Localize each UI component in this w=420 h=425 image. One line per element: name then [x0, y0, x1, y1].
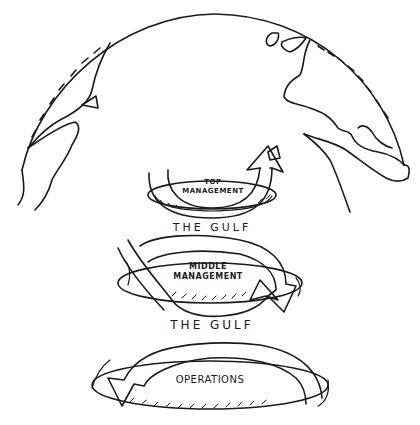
top-label-line1: TOP	[176, 178, 250, 187]
top-label-line2: MANAGEMENT	[176, 187, 250, 196]
gulf-label-1: THE GULF	[160, 221, 264, 234]
middle-label-line2: MANAGEMENT	[166, 272, 250, 282]
globe-tiers-illustration: TOP MANAGEMENT THE GULF MIDDLE MANAGEMEN…	[0, 0, 420, 425]
top-management-label: TOP MANAGEMENT	[176, 178, 250, 196]
middle-label-line1: MIDDLE	[166, 262, 250, 272]
middle-management-label: MIDDLE MANAGEMENT	[166, 262, 250, 282]
line-drawing	[0, 0, 420, 425]
gulf-label-2: THE GULF	[150, 318, 274, 332]
operations-label: OPERATIONS	[160, 374, 260, 385]
